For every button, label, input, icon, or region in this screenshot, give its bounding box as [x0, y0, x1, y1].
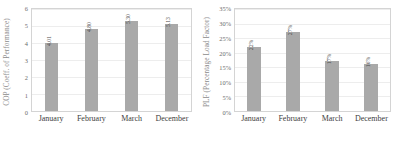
plf-y-tick-label: 15%	[219, 64, 231, 71]
y-axis-ticks-cop: 0123456	[13, 8, 29, 112]
plf-bar-value-label: 22%	[248, 40, 254, 50]
y-axis-title-cop: COP (Coeff. of Performance)	[0, 0, 14, 124]
plf-bar-value-label: 17%	[326, 54, 332, 64]
y-axis-title-plf-text: PLF (Percentage Load Factor)	[203, 17, 211, 107]
chart-panel-plf: PLF (Percentage Load Factor) 0%5%10%15%2…	[198, 0, 397, 144]
plf-x-tick-label: February	[273, 114, 312, 123]
plf-bar[interactable]: 17%	[325, 61, 339, 111]
plf-x-tick-label: December	[352, 114, 391, 123]
plf-y-tick-label: 10%	[219, 79, 231, 86]
cop-y-tick-label: 3	[25, 57, 28, 64]
plot-area-cop: 4.014.805.305.13	[31, 8, 192, 112]
cop-bar[interactable]: 5.30	[125, 21, 138, 111]
cop-bar-value-label: 5.30	[125, 14, 131, 24]
bar-slot: 4.80	[72, 9, 112, 111]
bar-slot: 17%	[313, 9, 352, 111]
bar-slot: 22%	[235, 9, 274, 111]
cop-y-tick-label: 2	[25, 74, 28, 81]
bar-slot: 5.13	[151, 9, 191, 111]
plf-bar[interactable]: 22%	[247, 47, 261, 111]
plf-bar-value-label: 27%	[287, 25, 293, 35]
cop-y-tick-label: 5	[25, 22, 28, 29]
plf-bar[interactable]: 16%	[364, 64, 378, 111]
x-axis-ticks-cop: JanuaryFebruaryMarchDecember	[31, 114, 192, 130]
cop-x-tick-label: March	[112, 114, 152, 123]
bars-layer-cop: 4.014.805.305.13	[32, 9, 191, 111]
cop-x-tick-label: December	[152, 114, 192, 123]
cop-y-tick-label: 1	[25, 91, 28, 98]
plf-y-tick-label: 5%	[222, 94, 231, 101]
plf-y-tick-label: 0%	[222, 109, 231, 116]
y-axis-ticks-plf: 0%5%10%15%20%25%30%35%	[212, 8, 232, 112]
y-axis-title-cop-text: COP (Coeff. of Performance)	[3, 18, 11, 105]
cop-y-tick-label: 4	[25, 39, 28, 46]
cop-bar[interactable]: 4.01	[45, 43, 58, 111]
cop-y-tick-label: 6	[25, 5, 28, 12]
bar-slot: 27%	[274, 9, 313, 111]
cop-bar-value-label: 4.01	[46, 36, 52, 46]
bar-slot: 4.01	[32, 9, 72, 111]
cop-x-tick-label: January	[31, 114, 71, 123]
plf-y-tick-label: 30%	[219, 19, 231, 26]
cop-y-tick-label: 0	[25, 109, 28, 116]
bar-slot: 16%	[351, 9, 390, 111]
cop-bar-value-label: 5.13	[165, 17, 171, 27]
bars-layer-plf: 22%27%17%16%	[235, 9, 390, 111]
cop-bar-value-label: 4.80	[86, 23, 92, 33]
plf-x-tick-label: March	[313, 114, 352, 123]
bar-slot: 5.30	[112, 9, 152, 111]
plot-area-plf: 22%27%17%16%	[234, 8, 391, 112]
chart-panel-cop: COP (Coeff. of Performance) 0123456 4.01…	[0, 0, 198, 144]
cop-bar[interactable]: 4.80	[85, 29, 98, 111]
plf-x-tick-label: January	[234, 114, 273, 123]
plf-y-tick-label: 35%	[219, 5, 231, 12]
x-axis-ticks-plf: JanuaryFebruaryMarchDecember	[234, 114, 391, 130]
dual-bar-chart-figure: COP (Coeff. of Performance) 0123456 4.01…	[0, 0, 397, 144]
plf-y-tick-label: 20%	[219, 49, 231, 56]
cop-x-tick-label: February	[71, 114, 111, 123]
plf-bar[interactable]: 27%	[286, 32, 300, 111]
plf-y-tick-label: 25%	[219, 34, 231, 41]
cop-bar[interactable]: 5.13	[165, 24, 178, 111]
plf-bar-value-label: 16%	[365, 57, 371, 67]
